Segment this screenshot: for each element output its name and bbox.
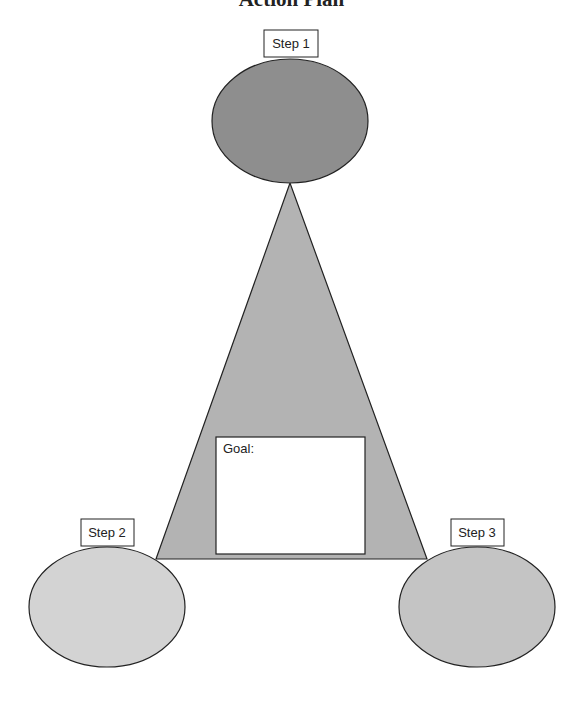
step-3-node[interactable] <box>399 547 555 667</box>
goal-label: Goal: <box>223 441 254 456</box>
step-2-label: Step 2 <box>88 525 126 540</box>
step-3-label: Step 3 <box>458 525 496 540</box>
step-1-node[interactable] <box>212 59 368 183</box>
action-plan-diagram: Goal: Step 1 Step 2 Step 3 <box>0 0 583 708</box>
step-2-label-box: Step 2 <box>81 519 134 546</box>
step-1-label: Step 1 <box>272 36 310 51</box>
step-2-node[interactable] <box>29 547 185 667</box>
step-3-label-box: Step 3 <box>451 519 504 546</box>
goal-box[interactable]: Goal: <box>216 437 365 554</box>
step-1-label-box: Step 1 <box>264 30 318 57</box>
